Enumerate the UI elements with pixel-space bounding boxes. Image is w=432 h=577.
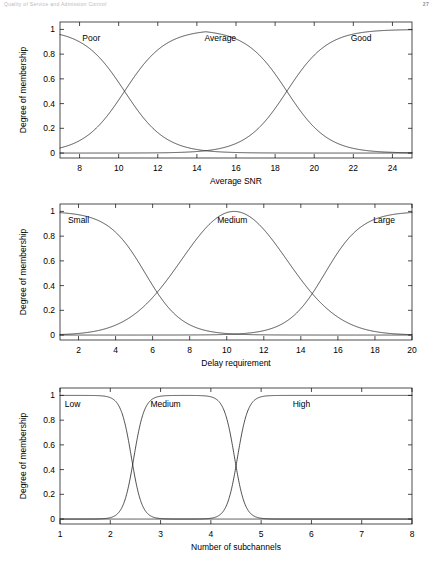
curve-medium [60,395,412,519]
x-tick-label: 10 [114,163,124,173]
curve-annotation: Large [373,215,395,225]
x-tick-label: 18 [270,163,280,173]
x-tick-label: 6 [150,345,155,355]
x-tick-label: 4 [113,345,118,355]
curve-annotation: Low [65,399,81,409]
x-axis-label: Delay requirement [201,358,271,368]
y-tick-label: 1 [50,24,55,34]
x-tick-label: 4 [208,529,213,539]
y-tick-label: 0.2 [43,489,55,499]
curve-annotation: Medium [217,215,247,225]
x-tick-label: 12 [259,345,269,355]
x-axis-label: Number of subchannels [191,542,281,552]
curve-high [60,395,412,519]
x-tick-label: 20 [407,345,417,355]
x-tick-label: 14 [296,345,306,355]
x-tick-label: 8 [77,163,82,173]
y-tick-label: 0.4 [43,99,55,109]
y-tick-label: 0.6 [43,74,55,84]
chart-number-of-subchannels: 1234567800.20.40.60.81LowMediumHighNumbe… [0,378,432,568]
y-tick-label: 0.8 [43,415,55,425]
y-tick-label: 0 [50,330,55,340]
x-tick-label: 16 [333,345,343,355]
y-tick-label: 1 [50,206,55,216]
y-axis-label: Degree of membership [18,229,28,316]
curve-large [60,213,412,336]
x-tick-label: 1 [58,529,63,539]
curve-annotation: Poor [82,33,100,43]
y-tick-label: 0.4 [43,281,55,291]
curve-good [60,30,412,153]
chart-panel-delay-requirement: 246810121416182000.20.40.60.81SmallMediu… [0,194,432,374]
x-tick-label: 7 [359,529,364,539]
y-tick-label: 0.4 [43,465,55,475]
figure-fuzzy-membership-functions: 8101214161820222400.20.40.60.81PoorAvera… [0,0,432,577]
chart-average-snr: 8101214161820222400.20.40.60.81PoorAvera… [0,12,432,192]
curve-poor [60,35,412,154]
chart-panel-average-snr: 8101214161820222400.20.40.60.81PoorAvera… [0,12,432,192]
x-tick-label: 10 [222,345,232,355]
curve-low [60,395,412,519]
x-tick-label: 6 [309,529,314,539]
chart-panel-number-of-subchannels: 1234567800.20.40.60.81LowMediumHighNumbe… [0,378,432,568]
x-tick-label: 8 [410,529,415,539]
y-tick-label: 0.6 [43,440,55,450]
x-axis-label: Average SNR [210,176,262,186]
curve-annotation: Small [68,215,89,225]
x-tick-label: 2 [76,345,81,355]
curve-small [60,213,412,335]
curve-annotation: Medium [150,399,180,409]
y-tick-label: 0.2 [43,123,55,133]
y-tick-label: 0 [50,148,55,158]
x-tick-label: 3 [158,529,163,539]
x-tick-label: 8 [187,345,192,355]
curve-annotation: High [293,399,311,409]
x-tick-label: 22 [349,163,359,173]
y-tick-label: 0.8 [43,231,55,241]
y-axis-label: Degree of membership [18,413,28,500]
y-tick-label: 0.2 [43,305,55,315]
chart-delay-requirement: 246810121416182000.20.40.60.81SmallMediu… [0,194,432,374]
x-tick-label: 5 [259,529,264,539]
curve-annotation: Good [351,33,372,43]
y-axis-label: Degree of membership [18,47,28,134]
curve-average [60,32,412,153]
x-tick-label: 14 [192,163,202,173]
curve-annotation: Average [205,33,237,43]
x-tick-label: 2 [108,529,113,539]
y-tick-label: 1 [50,390,55,400]
x-tick-label: 12 [153,163,163,173]
x-tick-label: 20 [309,163,319,173]
y-tick-label: 0 [50,514,55,524]
y-tick-label: 0.8 [43,49,55,59]
y-tick-label: 0.6 [43,256,55,266]
x-tick-label: 18 [370,345,380,355]
axes-frame [60,388,412,524]
x-tick-label: 24 [388,163,398,173]
x-tick-label: 16 [231,163,241,173]
